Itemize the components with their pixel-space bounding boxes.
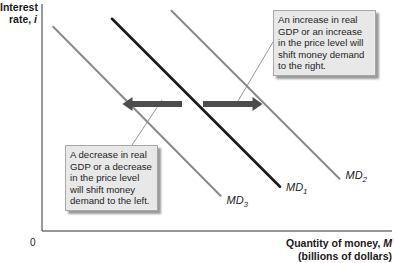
increase-note-leader [238,42,273,101]
x-axis-label-line1: Quantity of money, [286,237,383,249]
decrease-note: A decrease in real GDP or a decrease in … [65,145,158,211]
x-axis-symbol: M [383,237,392,249]
x-axis-label-line2: (billions of dollars) [286,250,392,263]
y-axis-label-line1: Interest [0,1,37,13]
curve-label-md3: MD3 [227,194,249,209]
shift-left-arrow [123,97,183,111]
curve-label-md2: MD2 [346,169,368,184]
x-axis-label: Quantity of money, M (billions of dollar… [286,237,392,263]
y-axis-label: Interest rate, i [0,1,37,25]
origin-label: 0 [30,237,36,248]
curve-label-md1: MD1 [286,181,308,196]
increase-note: An increase in real GDP or an increase i… [273,10,376,76]
y-axis-symbol: i [34,13,37,25]
y-axis-label-line2: rate, [9,13,34,25]
shift-right-arrow [203,97,263,111]
